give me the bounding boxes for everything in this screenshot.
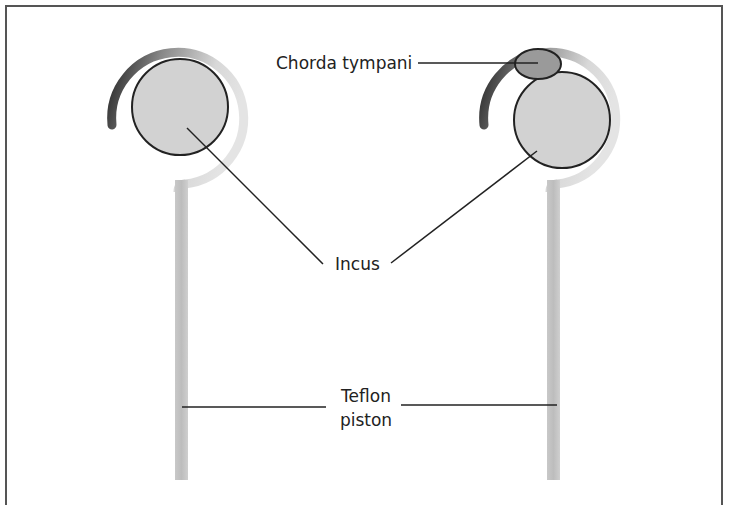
incus-leader-right bbox=[391, 151, 537, 263]
label-piston: piston bbox=[336, 410, 396, 430]
label-incus: Incus bbox=[335, 254, 380, 274]
right-piston-shaft bbox=[547, 180, 560, 480]
left-piston-shaft bbox=[175, 180, 188, 480]
label-teflon: Teflon bbox=[336, 386, 396, 406]
right-incus-circle bbox=[514, 72, 610, 168]
label-chorda-tympani: Chorda tympani bbox=[276, 53, 412, 73]
left-incus-circle bbox=[132, 59, 228, 155]
chorda-tympani-shape bbox=[515, 49, 561, 79]
incus-leader-left bbox=[187, 128, 323, 264]
